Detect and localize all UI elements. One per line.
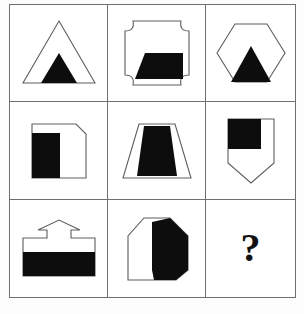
trapezoid-shape	[119, 120, 195, 182]
filled-upper-left-square-icon	[228, 119, 261, 149]
filled-inner-trapezoid-icon	[137, 126, 177, 176]
triangle-shape	[19, 17, 99, 89]
matrix-grid: ?	[9, 4, 296, 298]
matrix-cell-9-answer[interactable]: ?	[206, 200, 295, 297]
house-octagon-shape	[122, 214, 192, 284]
matrix-cell-6[interactable]	[206, 102, 295, 200]
matrix-puzzle-root: ?	[0, 0, 304, 314]
filled-right-region-icon	[152, 218, 188, 280]
filled-bottom-band-icon	[23, 252, 95, 276]
matrix-cell-5[interactable]	[108, 102, 206, 200]
shield-pentagon-shape	[223, 115, 279, 187]
concave-corner-square-shape	[119, 17, 195, 89]
filled-left-block-icon	[32, 133, 60, 178]
matrix-cell-4[interactable]	[10, 102, 108, 200]
matrix-cell-2[interactable]	[108, 5, 206, 102]
matrix-cell-8[interactable]	[108, 200, 206, 297]
clipped-corner-square-shape	[28, 120, 90, 182]
hexagon-shape	[213, 20, 289, 86]
question-mark-text: ?	[206, 200, 295, 297]
up-arrow-block-shape	[19, 218, 99, 280]
matrix-cell-1[interactable]	[10, 5, 108, 102]
matrix-cell-7[interactable]	[10, 200, 108, 297]
matrix-cell-3[interactable]	[206, 5, 295, 102]
